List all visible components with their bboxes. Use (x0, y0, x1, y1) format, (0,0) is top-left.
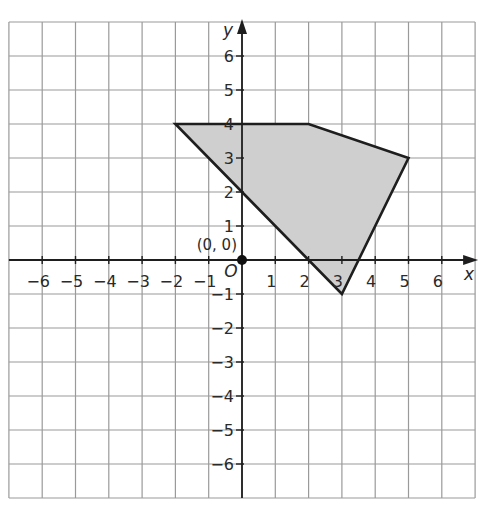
y-tick-label: −5 (210, 421, 234, 440)
x-tick-label: 2 (300, 272, 310, 291)
x-axis-label: x (463, 264, 475, 284)
y-tick-label: −4 (210, 387, 234, 406)
y-tick-label: −3 (210, 353, 234, 372)
axis-labels: −6−5−4−3−2−1123456−6−5−4−3−2−1123456xyO(… (26, 20, 475, 474)
x-tick-label: −6 (26, 272, 50, 291)
x-tick-label: 1 (266, 272, 276, 291)
origin-letter: O (224, 261, 237, 281)
polygon-shape (175, 124, 408, 294)
x-tick-label: 6 (433, 272, 443, 291)
y-tick-label: −1 (210, 285, 234, 304)
x-tick-label: −3 (126, 272, 150, 291)
y-tick-label: −2 (210, 319, 234, 338)
y-tick-label: 4 (224, 115, 234, 134)
origin-point (237, 255, 247, 265)
coordinate-plane-figure: −6−5−4−3−2−1123456−6−5−4−3−2−1123456xyO(… (0, 0, 485, 511)
y-axis-arrow-icon (237, 19, 247, 34)
y-tick-label: −6 (210, 455, 234, 474)
shaded-polygon (175, 124, 408, 294)
x-tick-label: −5 (60, 272, 84, 291)
y-tick-label: 1 (224, 217, 234, 236)
x-tick-label: 3 (333, 272, 343, 291)
axes (9, 19, 478, 498)
y-tick-label: 2 (224, 183, 234, 202)
x-tick-label: 5 (399, 272, 409, 291)
origin-coordinate-label: (0, 0) (197, 236, 237, 254)
y-axis-label: y (222, 20, 234, 40)
y-tick-label: 6 (224, 47, 234, 66)
x-tick-label: −4 (93, 272, 117, 291)
x-tick-label: −2 (160, 272, 184, 291)
y-tick-label: 3 (224, 149, 234, 168)
y-tick-label: 5 (224, 81, 234, 100)
x-tick-label: 4 (366, 272, 376, 291)
coordinate-plane: −6−5−4−3−2−1123456−6−5−4−3−2−1123456xyO(… (0, 0, 485, 511)
